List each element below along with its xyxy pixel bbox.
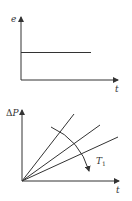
pressure-line-middle (22, 125, 100, 181)
bottom-y-axis-label-var: P (12, 108, 20, 118)
curved-arrow-icon (51, 127, 89, 171)
pressure-line-shallow (22, 137, 118, 181)
pressure-line-steep (22, 114, 74, 181)
top-chart: e t (11, 14, 119, 94)
bottom-chart: Δ P t T 1 (6, 108, 120, 195)
figure-canvas: e t Δ P t T 1 (0, 0, 132, 201)
top-y-axis-label: e (11, 14, 16, 24)
bottom-x-axis-label: t (116, 185, 120, 195)
top-x-axis-label: t (115, 84, 119, 94)
t1-annotation-subscript: 1 (102, 160, 106, 167)
